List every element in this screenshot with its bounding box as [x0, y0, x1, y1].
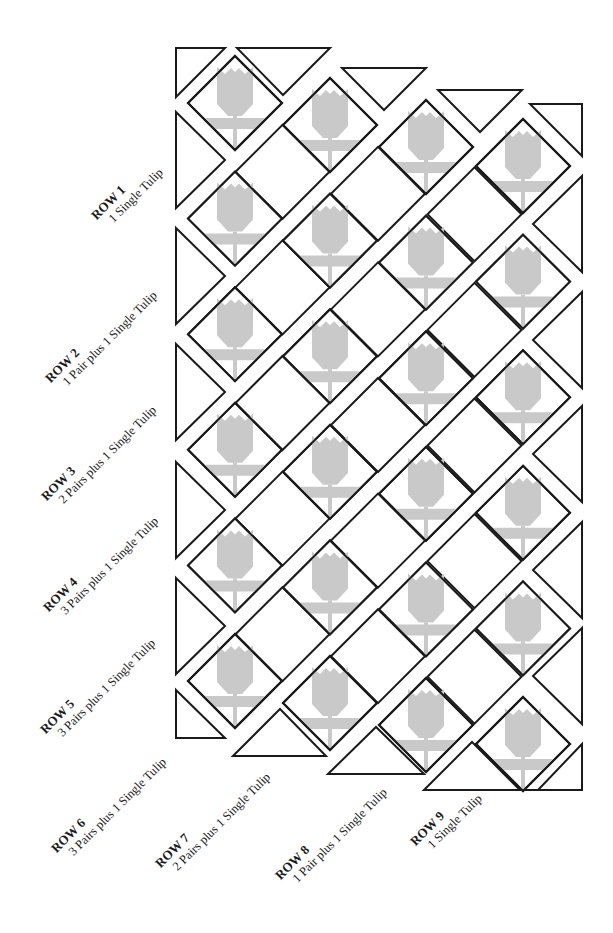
tulip-flower-icon: [408, 227, 444, 276]
tulip-stem-icon: [328, 369, 332, 401]
tulip-flower-icon: [408, 458, 444, 507]
tulip-stem-icon: [233, 116, 237, 148]
tulip-flower-icon: [408, 573, 444, 622]
tulip-stem-icon: [424, 160, 428, 192]
tulip-flower-icon: [217, 414, 253, 463]
tulip-stem-icon: [233, 347, 237, 379]
tulip-flower-icon: [312, 205, 348, 254]
tulip-stem-icon: [521, 410, 525, 442]
tulip-flower-icon: [505, 477, 541, 526]
tulip-stem-icon: [328, 138, 332, 170]
tulip-flower-icon: [312, 667, 348, 716]
tulip-stem-icon: [424, 622, 428, 654]
tulip-stem-icon: [521, 179, 525, 211]
tulip-stem-icon: [328, 716, 332, 748]
tulip-flower-icon: [505, 130, 541, 179]
tulip-flower-icon: [217, 529, 253, 578]
tulip-flower-icon: [408, 111, 444, 160]
tulip-stem-icon: [233, 463, 237, 495]
tulip-stem-icon: [328, 254, 332, 286]
tulip-flower-icon: [505, 708, 541, 757]
tulip-stem-icon: [424, 276, 428, 308]
tulip-flower-icon: [505, 592, 541, 641]
tulip-stem-icon: [521, 641, 525, 673]
tulip-flower-icon: [217, 645, 253, 694]
tulip-stem-icon: [424, 738, 428, 770]
tulip-flower-icon: [312, 551, 348, 600]
tulip-stem-icon: [424, 507, 428, 539]
tulip-flower-icon: [217, 183, 253, 232]
tulip-flower-icon: [312, 89, 348, 138]
tulip-flower-icon: [312, 320, 348, 369]
tulip-stem-icon: [328, 485, 332, 517]
tulip-stem-icon: [521, 295, 525, 327]
tulip-stem-icon: [328, 600, 332, 632]
tulip-stem-icon: [233, 578, 237, 610]
tulip-stem-icon: [233, 694, 237, 726]
tulip-stem-icon: [521, 526, 525, 558]
tulip-flower-icon: [217, 298, 253, 347]
tulip-flower-icon: [217, 67, 253, 116]
tulip-flower-icon: [505, 246, 541, 295]
tulip-flower-icon: [505, 361, 541, 410]
tulip-flower-icon: [312, 436, 348, 485]
tulip-stem-icon: [424, 391, 428, 423]
tulip-stem-icon: [521, 757, 525, 789]
tulip-flower-icon: [408, 342, 444, 391]
tulip-stem-icon: [233, 232, 237, 264]
tulip-flower-icon: [408, 689, 444, 738]
